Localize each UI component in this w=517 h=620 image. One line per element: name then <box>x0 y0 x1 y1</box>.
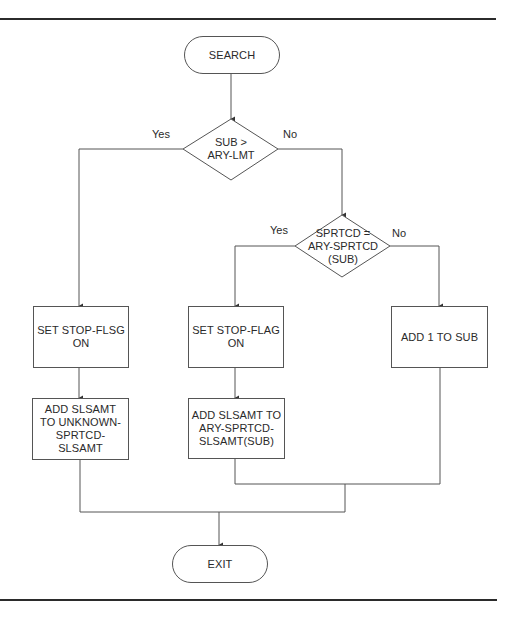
edge-label-d2-no: No <box>392 227 406 240</box>
terminal-exit-label: EXIT <box>208 558 233 571</box>
edge-label-d1-yes: Yes <box>152 128 170 141</box>
process-add-slsamt-unknown-label: ADD SLSAMT TO UNKNOWN- SPRTCD- SLSAMT <box>40 403 121 455</box>
edge-d2-yes <box>235 246 295 306</box>
terminal-search-label: SEARCH <box>209 49 255 62</box>
terminal-search: SEARCH <box>184 36 280 74</box>
edge-d1-yes <box>79 149 183 306</box>
process-add-one-to-sub-label: ADD 1 TO SUB <box>401 331 478 344</box>
decision-sprtcd: SPRTCD = ARY-SPRTCD (SUB) <box>297 226 389 266</box>
process-add-slsamt-ary-label: ADD SLSAMT TO ARY-SPRTCD- SLSAMT(SUB) <box>192 409 281 448</box>
terminal-exit: EXIT <box>172 545 268 583</box>
decision-sub-limit-label: SUB > ARY-LMT <box>207 136 254 162</box>
edge-label-d2-yes: Yes <box>270 224 288 237</box>
process-set-stop-flsg: SET STOP-FLSG ON <box>33 306 129 368</box>
process-set-stop-flag-label: SET STOP-FLAG ON <box>192 324 280 350</box>
process-set-stop-flag: SET STOP-FLAG ON <box>188 306 284 368</box>
edge-label-d1-no: No <box>283 128 297 141</box>
decision-sub-limit: SUB > ARY-LMT <box>193 134 269 164</box>
edge-merge-left <box>80 460 345 512</box>
decision-sprtcd-label: SPRTCD = ARY-SPRTCD (SUB) <box>308 227 378 266</box>
edge-d1-no <box>278 149 342 215</box>
process-add-slsamt-unknown: ADD SLSAMT TO UNKNOWN- SPRTCD- SLSAMT <box>32 398 129 460</box>
process-set-stop-flsg-label: SET STOP-FLSG ON <box>37 324 125 350</box>
process-add-one-to-sub: ADD 1 TO SUB <box>391 306 488 368</box>
edge-d2-no <box>390 246 439 306</box>
process-add-slsamt-ary: ADD SLSAMT TO ARY-SPRTCD- SLSAMT(SUB) <box>188 398 285 459</box>
